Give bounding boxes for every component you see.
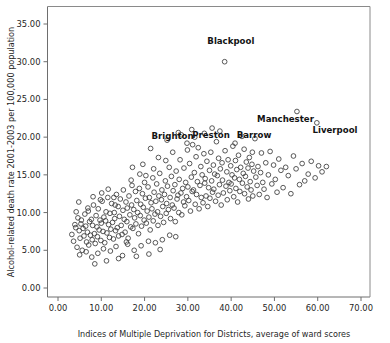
data-point (240, 181, 245, 186)
data-point (187, 161, 192, 166)
point-label-brighton: Brighton (152, 131, 194, 141)
data-point (154, 182, 159, 187)
data-point (253, 175, 258, 180)
data-point (251, 169, 256, 174)
data-point (262, 187, 267, 192)
data-point (70, 232, 75, 237)
data-point (203, 176, 208, 181)
data-point (197, 206, 202, 211)
data-point (92, 262, 97, 267)
data-point (108, 249, 113, 254)
data-point (228, 163, 233, 168)
data-point (162, 192, 167, 197)
data-point (223, 148, 228, 153)
point-label-manchester: Manchester (257, 114, 315, 124)
data-point (216, 156, 221, 161)
data-point (95, 234, 100, 239)
scatter-plot-figure: 0.0010.0020.0030.0040.0050.0060.0070.00 … (0, 0, 390, 343)
data-point (171, 188, 176, 193)
data-point (250, 150, 255, 155)
data-point (86, 206, 91, 211)
data-point (208, 196, 213, 201)
data-points (70, 59, 329, 266)
x-tick-label: 10.00 (89, 303, 113, 313)
data-point (99, 191, 104, 196)
data-point (134, 198, 139, 203)
data-point (104, 259, 109, 264)
y-tick-label: 35.00 (17, 19, 41, 29)
data-point (279, 168, 284, 173)
y-tick-label: 5.00 (22, 245, 41, 255)
data-point (268, 149, 273, 154)
data-point (150, 206, 155, 211)
data-point (95, 251, 100, 256)
data-point (214, 139, 219, 144)
data-point (165, 184, 170, 189)
data-point (226, 157, 231, 162)
data-point (93, 241, 98, 246)
data-point (114, 192, 119, 197)
data-point (186, 185, 191, 190)
plot-canvas: 0.0010.0020.0030.0040.0050.0060.0070.00 … (0, 0, 390, 343)
data-point (170, 150, 175, 155)
data-point (295, 109, 300, 114)
data-point (73, 222, 78, 227)
data-point (151, 166, 156, 171)
data-point (217, 182, 222, 187)
data-point (119, 223, 124, 228)
data-point (105, 195, 110, 200)
data-point (157, 171, 162, 176)
data-point (294, 166, 299, 171)
data-point (313, 176, 318, 181)
data-point (163, 158, 168, 163)
data-point (196, 145, 201, 150)
data-point (138, 213, 143, 218)
data-point (111, 195, 116, 200)
data-point (286, 173, 291, 178)
data-point (182, 166, 187, 171)
data-point (180, 186, 185, 191)
data-point (281, 185, 286, 190)
data-point (300, 161, 305, 166)
data-point (138, 202, 143, 207)
data-point (302, 179, 307, 184)
data-point (185, 148, 190, 153)
data-point (167, 233, 172, 238)
data-point (77, 252, 82, 257)
data-point (151, 219, 156, 224)
data-point (259, 151, 264, 156)
data-point (129, 178, 134, 183)
data-point (244, 160, 249, 165)
data-point (273, 177, 278, 182)
data-point (207, 168, 212, 173)
data-point (291, 154, 296, 159)
point-annotations: BlackpoolBrightonPrestonBarrowManchester… (152, 36, 358, 142)
data-point (276, 157, 281, 162)
data-point (208, 150, 213, 155)
data-point (188, 209, 193, 214)
data-point (213, 199, 218, 204)
data-point (263, 160, 268, 165)
data-point (211, 187, 216, 192)
data-point (218, 166, 223, 171)
data-point (76, 216, 81, 221)
data-point (75, 245, 80, 250)
y-tick-label: 15.00 (17, 170, 41, 180)
data-point (112, 210, 117, 215)
x-tick-label: 40.00 (219, 303, 243, 313)
x-tick-label: 50.00 (262, 303, 286, 313)
data-point (258, 170, 263, 175)
data-point (189, 175, 194, 180)
data-point (183, 180, 188, 185)
data-point (306, 172, 311, 177)
data-point (216, 193, 221, 198)
y-tick-label: 20.00 (17, 132, 41, 142)
data-point (283, 165, 288, 170)
data-point (194, 192, 199, 197)
data-point (108, 227, 113, 232)
data-point (250, 162, 255, 167)
data-point (149, 200, 154, 205)
data-point (124, 200, 129, 205)
data-point (220, 160, 225, 165)
data-point (114, 244, 119, 249)
